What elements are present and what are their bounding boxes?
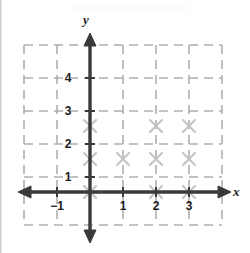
- y-axis-arrow-up: [84, 33, 96, 46]
- y-tick-label-4: 4: [57, 72, 79, 84]
- x-tick-label-3: 3: [178, 200, 200, 212]
- y-tick-label-3: 3: [57, 105, 79, 117]
- x-axis-label: x: [233, 185, 240, 198]
- y-axis-label: y: [83, 13, 89, 26]
- x-axis: [18, 186, 231, 198]
- y-tick-label-1: 1: [57, 171, 79, 183]
- gridlines-vertical: [24, 45, 222, 225]
- x-tick-label-1: 1: [112, 200, 134, 212]
- coordinate-plane: [0, 0, 250, 253]
- y-axis-arrow-down: [84, 230, 96, 243]
- graph-screenshot: y x 4 3 2 1 −1 1 2 3: [0, 0, 250, 253]
- y-tick-label-2: 2: [57, 138, 79, 150]
- faint-plot-marks: [84, 120, 195, 198]
- y-axis: [84, 33, 96, 243]
- x-axis-arrow-right: [218, 186, 231, 198]
- x-tick-label-2: 2: [145, 200, 167, 212]
- x-tick-label-neg1: −1: [46, 200, 68, 212]
